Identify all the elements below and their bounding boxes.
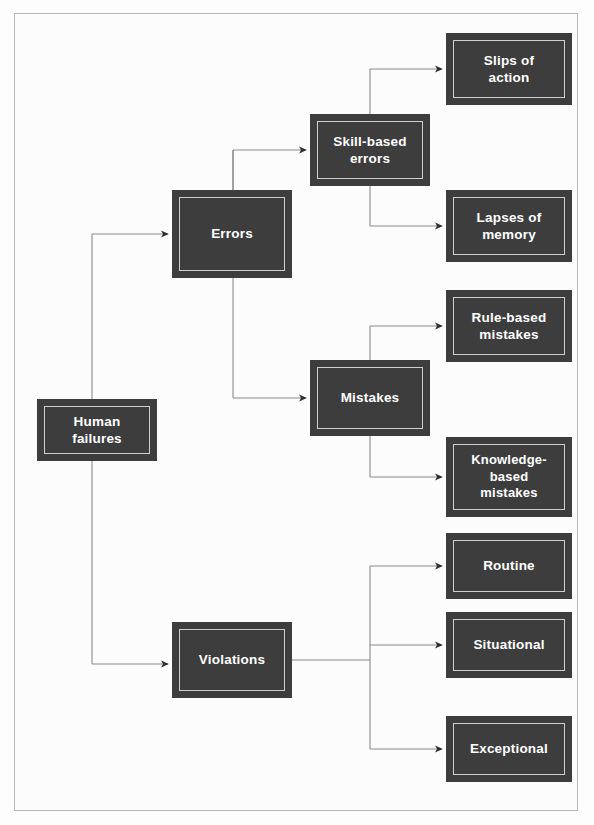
node-errors-inner: Errors [179,197,285,271]
node-lapses-of-memory-label: Lapses of memory [473,209,546,244]
node-violations[interactable]: Violations [172,622,292,698]
node-human-failures-inner: Human failures [44,406,150,454]
node-exceptional[interactable]: Exceptional [446,716,572,782]
node-routine-label: Routine [479,557,539,574]
node-skill-based-errors-label: Skill-based errors [329,133,410,168]
node-slips-of-action-label: Slips of action [480,52,538,87]
node-skill-based-errors[interactable]: Skill-based errors [310,114,430,186]
node-errors[interactable]: Errors [172,190,292,278]
node-exceptional-label: Exceptional [466,740,552,757]
node-situational-inner: Situational [453,619,565,671]
node-violations-inner: Violations [179,629,285,691]
node-human-failures[interactable]: Human failures [37,399,157,461]
node-lapses-of-memory-inner: Lapses of memory [453,197,565,255]
node-exceptional-inner: Exceptional [453,723,565,775]
node-routine-inner: Routine [453,540,565,592]
node-rule-based-mistakes-label: Rule-based mistakes [468,309,551,344]
node-mistakes-inner: Mistakes [317,367,423,429]
node-knowledge-based-mistakes[interactable]: Knowledge- based mistakes [446,437,572,517]
node-mistakes[interactable]: Mistakes [310,360,430,436]
node-situational-label: Situational [469,636,548,653]
node-rule-based-mistakes[interactable]: Rule-based mistakes [446,290,572,362]
node-routine[interactable]: Routine [446,533,572,599]
node-lapses-of-memory[interactable]: Lapses of memory [446,190,572,262]
node-skill-based-errors-inner: Skill-based errors [317,121,423,179]
node-human-failures-label: Human failures [68,413,126,448]
node-slips-of-action[interactable]: Slips of action [446,33,572,105]
node-rule-based-mistakes-inner: Rule-based mistakes [453,297,565,355]
node-mistakes-label: Mistakes [337,389,404,406]
node-knowledge-based-mistakes-inner: Knowledge- based mistakes [453,444,565,510]
node-errors-label: Errors [207,225,257,242]
node-slips-of-action-inner: Slips of action [453,40,565,98]
diagram-page: Human failures Errors Violations Skill-b… [0,0,594,825]
node-situational[interactable]: Situational [446,612,572,678]
node-knowledge-based-mistakes-label: Knowledge- based mistakes [467,452,551,502]
node-violations-label: Violations [195,651,269,668]
